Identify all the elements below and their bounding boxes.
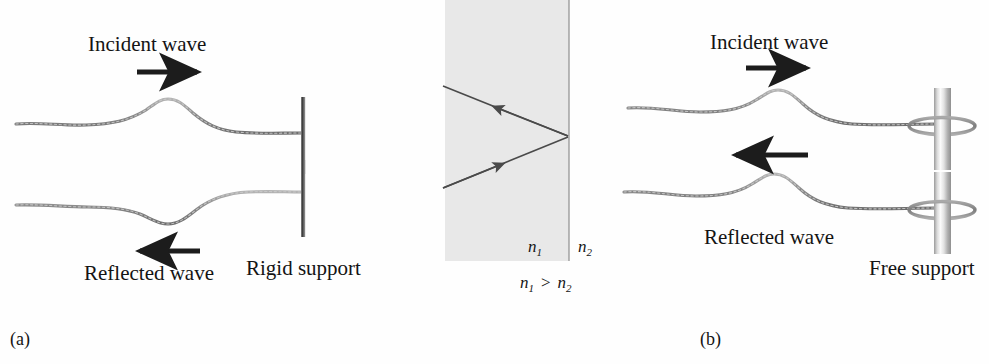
panel-a-rigid-support-bar-bottom bbox=[301, 160, 305, 237]
panel-b-caption: (b) bbox=[700, 330, 721, 348]
panel-b-free-support-label: Free support bbox=[869, 258, 975, 279]
panel-b-free-support-pole-top bbox=[909, 88, 975, 170]
panel-b-free-support-pole-bottom bbox=[909, 172, 975, 254]
medium-n1-shaded-region bbox=[445, 0, 569, 261]
panel-b-reflected-rope bbox=[624, 174, 936, 209]
medium-n2-label: n2 bbox=[578, 238, 592, 258]
panel-b-free-support-ring-bottom bbox=[909, 202, 975, 219]
medium-n1-symbol: n bbox=[528, 237, 537, 256]
panel-b-free-support-ring-top bbox=[909, 118, 975, 135]
medium-n2-symbol: n bbox=[578, 237, 587, 256]
relation-n2-subscript: 2 bbox=[566, 282, 572, 294]
panel-a-rigid-support-label: Rigid support bbox=[246, 258, 361, 279]
medium-n1-label: n1 bbox=[528, 238, 542, 258]
panel-b-reflected-wave-label: Reflected wave bbox=[704, 227, 834, 248]
panel-b-incident-rope bbox=[628, 90, 938, 125]
panel-a-rigid-support-bar-top bbox=[301, 97, 305, 174]
panel-a-reflected-rope bbox=[16, 192, 302, 224]
relation-operator: > bbox=[534, 273, 558, 292]
panel-b-incident-wave-label: Incident wave bbox=[710, 32, 828, 53]
relation-n1-symbol: n bbox=[520, 273, 529, 292]
medium-n1-subscript: 1 bbox=[537, 246, 543, 258]
panel-a-incident-rope bbox=[16, 99, 302, 133]
medium-index-relation: n1>n2 bbox=[520, 274, 572, 294]
physics-figure-wave-reflection: Incident wave Reflected wave Rigid suppo… bbox=[0, 0, 989, 364]
panel-a-caption: (a) bbox=[10, 330, 30, 348]
panel-a-incident-wave-label: Incident wave bbox=[88, 34, 206, 55]
relation-n2-symbol: n bbox=[558, 273, 567, 292]
panel-a-reflected-wave-label: Reflected wave bbox=[84, 263, 214, 284]
medium-n2-subscript: 2 bbox=[587, 246, 593, 258]
